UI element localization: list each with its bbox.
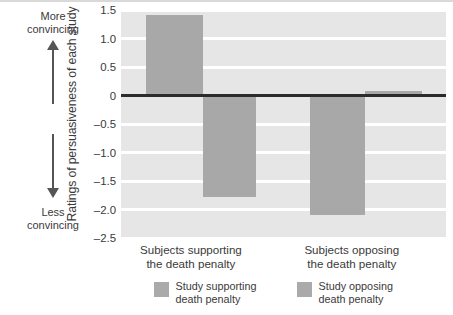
y-tick-label-0: 1.5 <box>100 4 116 16</box>
y-tick-label-6: –1.5 <box>94 175 116 187</box>
x-group-label-0-line1: Subjects supporting <box>110 243 273 257</box>
x-axis-group-labels: Subjects supportingthe death penaltySubj… <box>121 243 446 277</box>
bar-s0-c0[interactable] <box>146 15 203 96</box>
arrow-down-head <box>47 188 59 198</box>
y-tick-label-5: –1.0 <box>94 147 116 159</box>
legend-label-1-line2: death penalty <box>319 293 393 306</box>
y-tick-label-7: –2.0 <box>94 204 116 216</box>
arrow-up-shaft <box>52 49 55 104</box>
bar-s1-c0[interactable] <box>203 96 256 197</box>
legend-label-0: Study supportingdeath penalty <box>176 280 257 306</box>
legend-label-0-line2: death penalty <box>176 293 257 306</box>
legend-label-0-line1: Study supporting <box>176 280 257 293</box>
x-group-label-1-line1: Subjects opposing <box>271 243 434 257</box>
legend-swatch-0 <box>154 282 169 297</box>
anchor-low-line1: Less <box>22 206 84 219</box>
y-tick-label-1: 1.0 <box>100 33 116 45</box>
x-group-label-1: Subjects opposingthe death penalty <box>271 243 434 270</box>
gridline-8 <box>121 237 446 239</box>
gridline-6 <box>121 180 446 183</box>
x-group-label-0: Subjects supportingthe death penalty <box>110 243 273 270</box>
y-tick-label-4: –0.5 <box>94 118 116 130</box>
bar-s0-c1[interactable] <box>310 96 365 216</box>
scale-anchor-column: More convincing Less convincing <box>22 6 84 238</box>
legend-label-1: Study opposingdeath penalty <box>319 280 393 306</box>
legend-swatch-1 <box>297 282 312 297</box>
chart-legend: Study supportingdeath penaltyStudy oppos… <box>121 281 446 311</box>
y-tick-label-3: 0 <box>110 90 116 102</box>
plot-area <box>121 10 446 238</box>
anchor-low-line2: convincing <box>22 219 84 232</box>
gridline-0 <box>121 10 446 12</box>
arrow-down-icon <box>50 134 56 198</box>
legend-label-1-line1: Study opposing <box>319 280 393 293</box>
zero-baseline <box>121 94 446 96</box>
x-group-label-0-line2: the death penalty <box>110 257 273 271</box>
x-group-label-1-line2: the death penalty <box>271 257 434 271</box>
chart-figure: Ratings of persuasiveness of each study … <box>0 0 453 315</box>
gridline-5 <box>121 151 446 154</box>
gridline-4 <box>121 123 446 126</box>
anchor-high: More convincing <box>22 10 84 35</box>
y-axis-tick-labels: 1.51.00.50–0.5–1.0–1.5–2.0–2.5 <box>84 0 116 250</box>
gridline-7 <box>121 208 446 211</box>
anchor-high-line1: More <box>22 10 84 23</box>
anchor-high-line2: convincing <box>22 23 84 36</box>
arrow-down-shaft <box>52 134 55 189</box>
arrow-up-icon <box>50 40 56 104</box>
anchor-low: Less convincing <box>22 206 84 231</box>
y-tick-label-2: 0.5 <box>100 61 116 73</box>
